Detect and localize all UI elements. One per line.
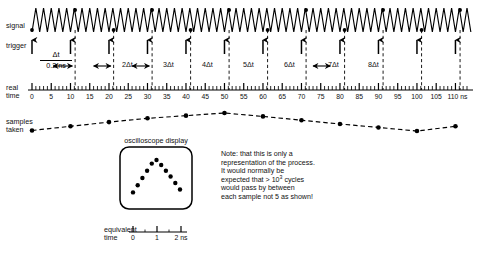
samples-taken-curve: [30, 111, 458, 134]
trigger-guide-lines: [75, 30, 460, 90]
oscilloscope-screen: [120, 147, 192, 209]
trigger-arrows: [30, 8, 462, 54]
real-time-axis: [28, 83, 473, 90]
real-time-tick-110: 110 ns: [447, 93, 481, 100]
equivalent-time-axis: [129, 226, 187, 232]
signal-waveform: [32, 8, 471, 32]
equivalent-time-tick-2: 2 ns: [167, 234, 195, 241]
diagram-graphics: [0, 0, 489, 253]
real-time-tick-105: 105: [424, 93, 448, 100]
equivalent-time-sampling-diagram: signal trigger real time samples taken e…: [0, 0, 489, 253]
